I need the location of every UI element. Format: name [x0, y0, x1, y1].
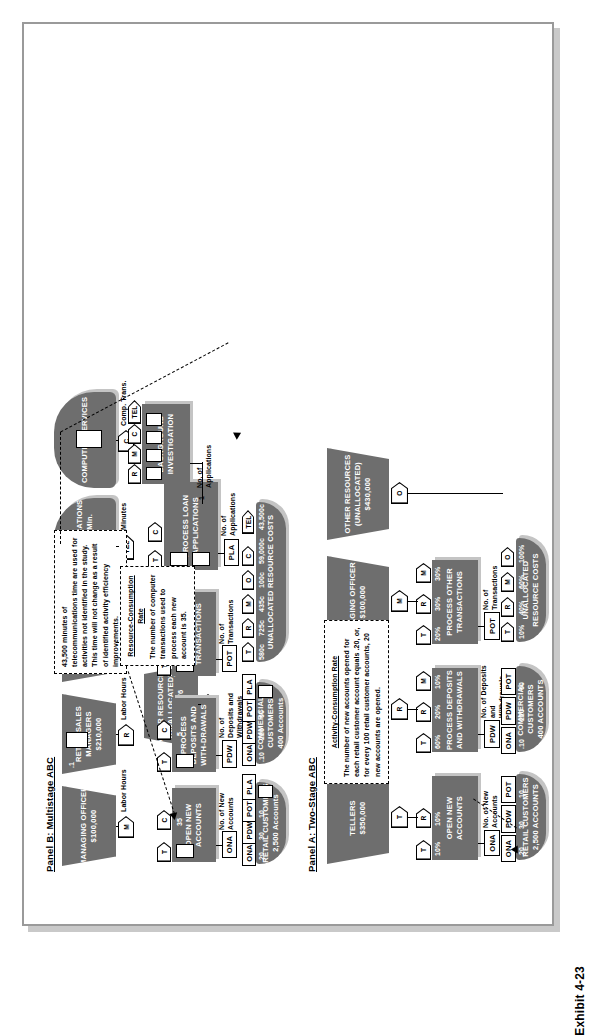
note-body: The number of computer transactions used… [148, 573, 189, 659]
co-a2-val-0: 10% [518, 625, 525, 639]
activity-b3-driver-c: C [148, 522, 162, 542]
conn-a-t [408, 817, 418, 818]
co-a2-val-1: 40% [518, 601, 525, 615]
activity-a2-pct-2: 30% [434, 567, 441, 581]
co-a2-driver-r: R [501, 597, 514, 617]
activity-name: PROCESS DEPOSITS AND WITHDRAWALS [445, 668, 465, 752]
co-b0-val-1: 30 [258, 832, 265, 840]
co-b2-driver-o: O [242, 570, 254, 590]
driver-tag-t-a: T [391, 806, 408, 828]
activity-b3-slot-0 [170, 552, 188, 566]
conn-b-m [116, 826, 119, 827]
driver-tag-m-b: M [118, 816, 134, 838]
resource-other-resources-a: OTHER RESOURCES (UNALLOCATED) $430,000 [327, 448, 389, 540]
resource-name: MANAGING OFFICER [79, 786, 89, 866]
activity-b1-output-label: No. of Deposits and Withdrawals [218, 690, 244, 738]
conn-a-r [408, 709, 418, 710]
activity-name: OPEN NEW ACCOUNTS [445, 776, 465, 860]
note-telecom-leader [60, 432, 61, 544]
resource-amount: $100,000 [89, 810, 99, 843]
activity-b4-driver-tel: TEL [128, 400, 141, 424]
co-b0-slot-3 [258, 785, 273, 798]
co-b2-val-2: 435c [258, 596, 265, 612]
co-b1-val-0: .10 [258, 752, 265, 762]
activity-a2-driver-r: R [416, 594, 431, 614]
conn-b-c [116, 440, 119, 441]
activity-a1-driver-t: T [416, 733, 431, 753]
co-b2-driver-t: T [242, 642, 254, 662]
co-a1-driver-pdw: PDW [501, 697, 516, 725]
driver-tag-r-b: R [118, 724, 134, 746]
note-resource-consumption-rate: Resource-Consumption Rate The number of … [120, 566, 195, 666]
co-b1-driver-pla: PLA [242, 674, 256, 700]
conn-a-m [408, 601, 418, 602]
activity-b4-slot-1 [146, 449, 162, 462]
activity-a2-driver-t: T [416, 625, 431, 645]
co-b0-val-2: 10 [258, 810, 265, 818]
co-a2-driver-t: T [501, 622, 514, 642]
co-a2-driver-o: O [501, 547, 514, 567]
co-a0-driver-pot: POT [501, 776, 516, 803]
conn-a-o [408, 493, 503, 494]
co-b2-driver-m: M [242, 594, 254, 614]
co-b2-driver-tel: TEL [242, 510, 254, 534]
activity-a2-pct-1: 30% [434, 597, 441, 611]
driver-tag-r-a: R [391, 698, 408, 720]
co-a0-val-1: 30 [518, 821, 525, 829]
activity-a0-output-tag: ONA [484, 830, 500, 856]
activity-a0-driver-t: T [416, 840, 431, 860]
co-a2-val-3: 100% [518, 545, 525, 563]
activity-b2-output-tag: POT [222, 645, 237, 672]
activity-b4-slot-3 [146, 413, 162, 426]
driver-label-r-b: Labor Hours [120, 677, 129, 720]
conn-b-act2-out [216, 659, 223, 660]
co-b1-slot-3 [258, 685, 273, 698]
conn-b-act3-out [218, 553, 225, 554]
note-activity-consumption-rate: Activity-Consumption Rate The number of … [324, 620, 389, 784]
activity-b1-slot [176, 754, 194, 768]
cost-object-name: UNALLOCATED RESOURCE COSTS [266, 515, 276, 649]
co-a2-driver-m: M [501, 572, 514, 592]
activity-b4-driver-r: R [128, 464, 141, 484]
activity-b3-slot-1 [192, 552, 210, 566]
driver-label-tel-b: Minutes [120, 503, 129, 530]
note-title: Activity-Consumption Rate [330, 627, 340, 777]
activity-b1-val-1: 5 [176, 732, 183, 736]
activity-b0-output-label: No. of New Accounts [218, 788, 236, 830]
conn-b-act4-to-pla [202, 462, 203, 504]
cost-object-detail: 400 ACCOUNTS [536, 679, 546, 738]
resource-r-slot-b [66, 732, 88, 748]
note-telecom-arrow [233, 429, 243, 439]
driver-label-c-b: Comp. Trans. [120, 380, 129, 426]
activity-a1-output-tag: PDW [484, 720, 500, 748]
note-body: 43,500 minutes of telecommunications tim… [60, 537, 121, 667]
cost-object-detail: 2,500 ACCOUNTS [531, 784, 541, 850]
resource-name: OTHER RESOURCES [343, 455, 353, 534]
activity-a2-pct-0: 20% [434, 627, 441, 641]
co-b2-val-5: 43,500c [258, 504, 265, 530]
driver-label-m-b: Labor Hours [120, 769, 129, 812]
co-a2-val-2: 60% [518, 575, 525, 589]
activity-name: PROCESS OTHER TRANSACTIONS [445, 560, 465, 644]
activity-b0-slot [176, 844, 194, 858]
co-b2-driver-c: C [242, 546, 254, 566]
activity-a1-pct-0: 60% [434, 735, 441, 749]
activity-b4-slot-0 [146, 467, 162, 480]
resource-amount: $430,000 [363, 478, 373, 511]
activity-b3-output-label: No. of Applications [220, 492, 238, 536]
driver-tag-o-a: O [391, 482, 408, 504]
co-a1-driver-pot: POT [501, 668, 516, 695]
conn-b-act1-out [216, 755, 223, 756]
co-b1-val-2: 60 [258, 710, 265, 718]
note-body: The number of new accounts opened for ea… [342, 627, 383, 777]
resource-c-slot-b [76, 430, 102, 448]
activity-a0-driver-r: R [416, 808, 431, 828]
conn-b-t [116, 642, 119, 643]
co-a1-val-2: 60 [518, 682, 525, 690]
resource-amount: $350,000 [358, 802, 368, 835]
cost-object-detail: 400 Accounts [276, 698, 286, 749]
co-b2-val-0: 580c [258, 644, 265, 660]
co-b1-val-1: 220 [258, 728, 265, 740]
co-b2-driver-r: R [242, 618, 254, 638]
